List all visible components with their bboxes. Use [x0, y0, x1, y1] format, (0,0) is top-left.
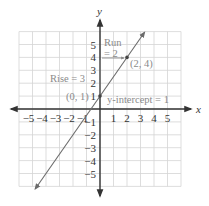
- y-tick-label: 3: [91, 64, 97, 76]
- y-tick-label: 5: [91, 39, 97, 51]
- x-tick-label: −2: [63, 112, 75, 124]
- x-tick-label: 3: [138, 112, 144, 124]
- y-tick-label: −2: [84, 129, 96, 141]
- y-tick-label: −4: [84, 155, 96, 167]
- y-intercept-label: y-intercept = 1: [107, 94, 169, 105]
- y-tick-label: 2: [91, 77, 97, 89]
- x-tick-label: 4: [151, 112, 157, 124]
- y-tick-label: −3: [84, 142, 96, 154]
- run-label: Run: [104, 37, 122, 48]
- point-a-label: (0, 1): [66, 91, 89, 103]
- point-y-intercept: [98, 94, 102, 98]
- y-tick-label: −5: [84, 168, 96, 180]
- x-tick-label: −5: [23, 112, 35, 124]
- y-tick-label: 1: [91, 90, 97, 102]
- x-axis-label: x: [195, 103, 201, 115]
- y-tick-label: 4: [91, 51, 97, 63]
- x-tick-label: 2: [124, 112, 130, 124]
- y-axis-label: y: [96, 5, 102, 17]
- x-tick-label: −4: [36, 112, 48, 124]
- x-tick-label: −3: [50, 112, 62, 124]
- x-tick-label: 5: [165, 112, 171, 124]
- run-value-label: = 2: [104, 48, 118, 59]
- coordinate-plane: x y −5−4−3−2−112345−5−4−3−2−112345 Run =…: [0, 0, 209, 206]
- rise-label: Rise = 3: [50, 73, 85, 84]
- y-tick-label: −1: [84, 116, 96, 128]
- x-tick-label: 1: [111, 112, 117, 124]
- point-2-4: [125, 56, 129, 60]
- point-b-label: (2, 4): [130, 58, 153, 70]
